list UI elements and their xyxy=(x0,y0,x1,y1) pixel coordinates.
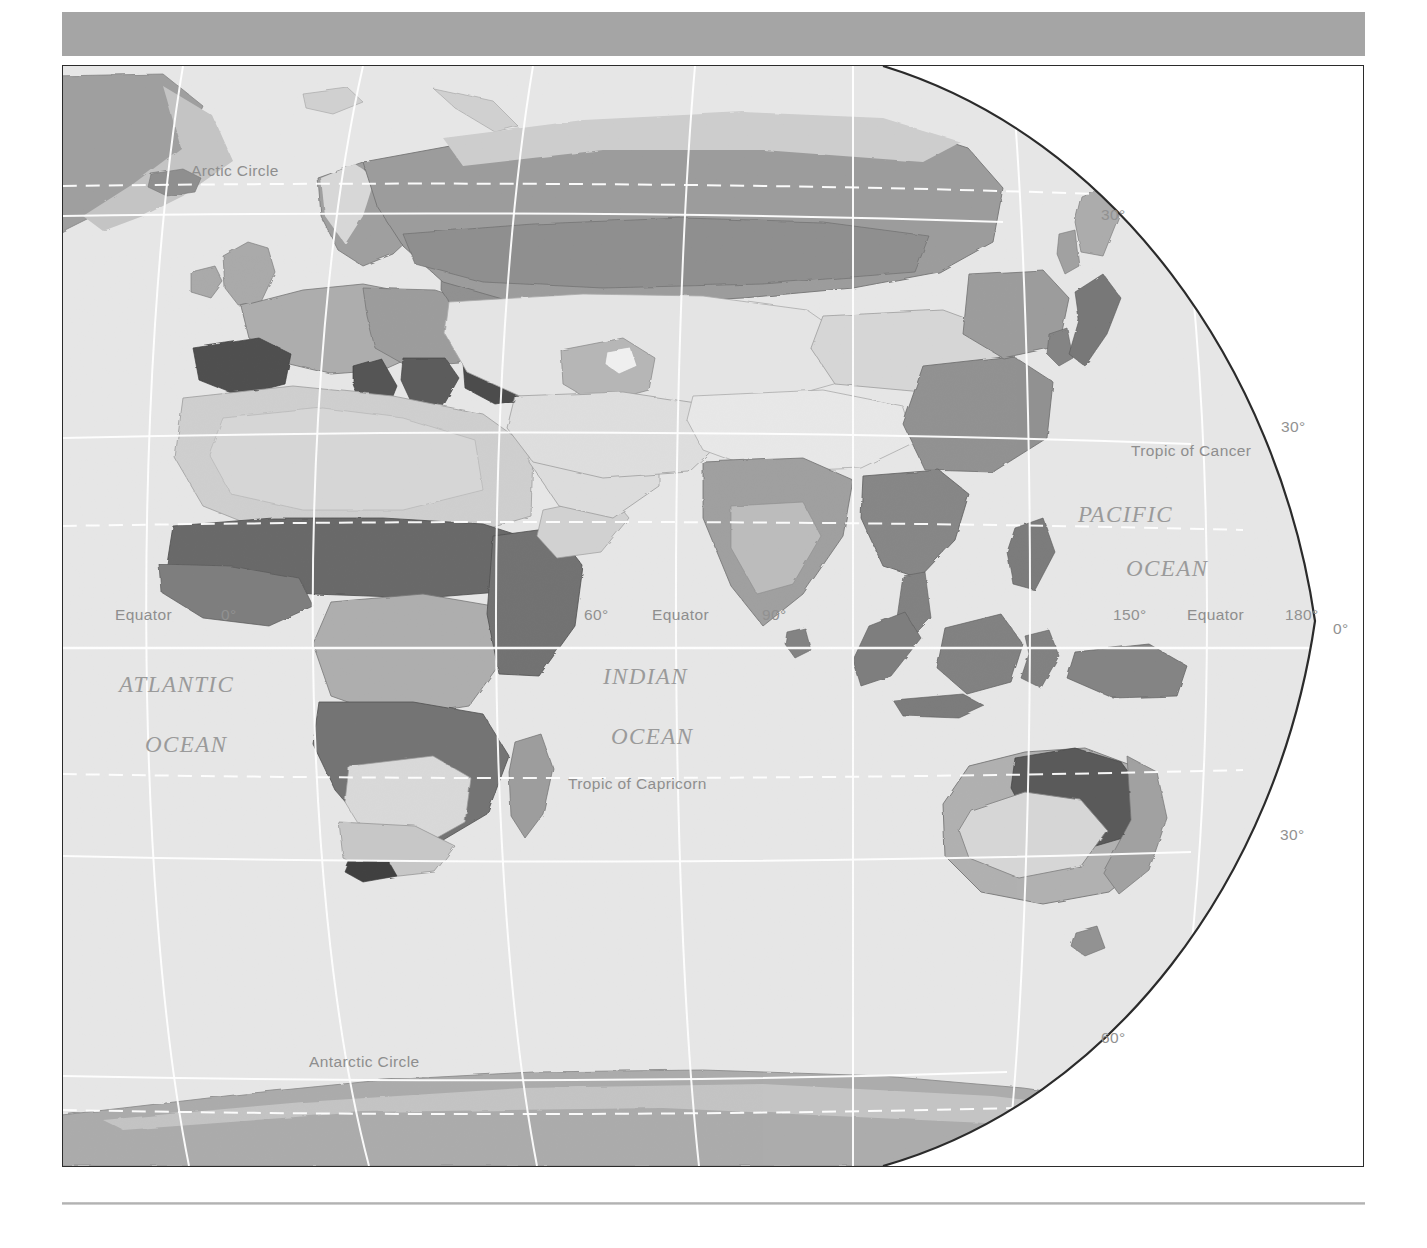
map-frame: Arctic Circle 30° 30° Tropic of Cancer P… xyxy=(62,65,1364,1167)
world-climate-map-graphic xyxy=(63,66,1363,1166)
hemisphere-disc xyxy=(63,66,1363,1166)
header-band xyxy=(62,12,1365,56)
map-canvas: Arctic Circle 30° 30° Tropic of Cancer P… xyxy=(63,66,1363,1166)
land-new-zealand xyxy=(1247,900,1285,950)
land-new-zealand-south xyxy=(1205,938,1253,984)
footer-divider xyxy=(62,1202,1365,1205)
